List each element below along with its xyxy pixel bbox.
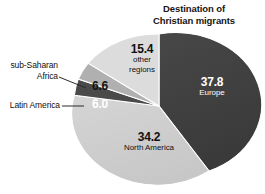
callout-latin-america: Latin America xyxy=(0,100,60,111)
slice-name-north-america: North America xyxy=(104,143,194,154)
slice-value-latin-america-wrap: 6.0 xyxy=(83,99,117,110)
slice-label-other-regions: 15.4 other regions xyxy=(111,44,173,76)
callout-latin-america-label: Latin America xyxy=(10,100,60,110)
slice-value-sub-saharan-africa: 6.6 xyxy=(83,81,117,92)
callout-sub-saharan-africa: sub-Saharan Africa xyxy=(0,60,58,81)
slice-name-other-regions-line2: regions xyxy=(111,65,173,76)
slice-name-europe: Europe xyxy=(181,88,243,99)
slice-value-north-america: 34.2 xyxy=(104,132,194,143)
slice-value-europe: 37.8 xyxy=(181,77,243,88)
pie-chart: Destination of Christian migrants xyxy=(0,0,265,194)
slice-label-europe: 37.8 Europe xyxy=(181,77,243,98)
slice-value-latin-america: 6.0 xyxy=(83,99,117,110)
slice-name-other-regions-line1: other xyxy=(111,55,173,66)
slice-value-sub-saharan-africa-wrap: 6.6 xyxy=(83,81,117,92)
slice-value-other-regions: 15.4 xyxy=(111,44,173,55)
callout-sub-saharan-africa-line2: Africa xyxy=(37,71,58,81)
slice-label-north-america: 34.2 North America xyxy=(104,132,194,153)
callout-sub-saharan-africa-line1: sub-Saharan xyxy=(10,60,58,70)
